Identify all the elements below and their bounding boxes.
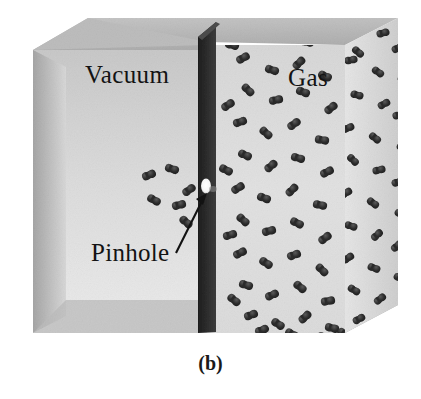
gas-label: Gas (288, 65, 328, 90)
gas-molecule (396, 73, 411, 86)
gas-molecule (310, 331, 326, 342)
gas-molecule (376, 319, 391, 333)
pinhole-aperture (201, 179, 211, 194)
effusion-figure: Vacuum Gas Pinhole (b) (0, 0, 421, 399)
figure-caption: (b) (0, 352, 421, 375)
effusion-scene-svg (0, 0, 421, 399)
vacuum-label: Vacuum (85, 62, 169, 87)
partition-wall (198, 22, 216, 333)
pinhole-label: Pinhole (91, 240, 170, 265)
gas-molecule (360, 326, 375, 339)
pinhole-glow (209, 186, 217, 192)
vacuum-left-wall (33, 50, 66, 333)
